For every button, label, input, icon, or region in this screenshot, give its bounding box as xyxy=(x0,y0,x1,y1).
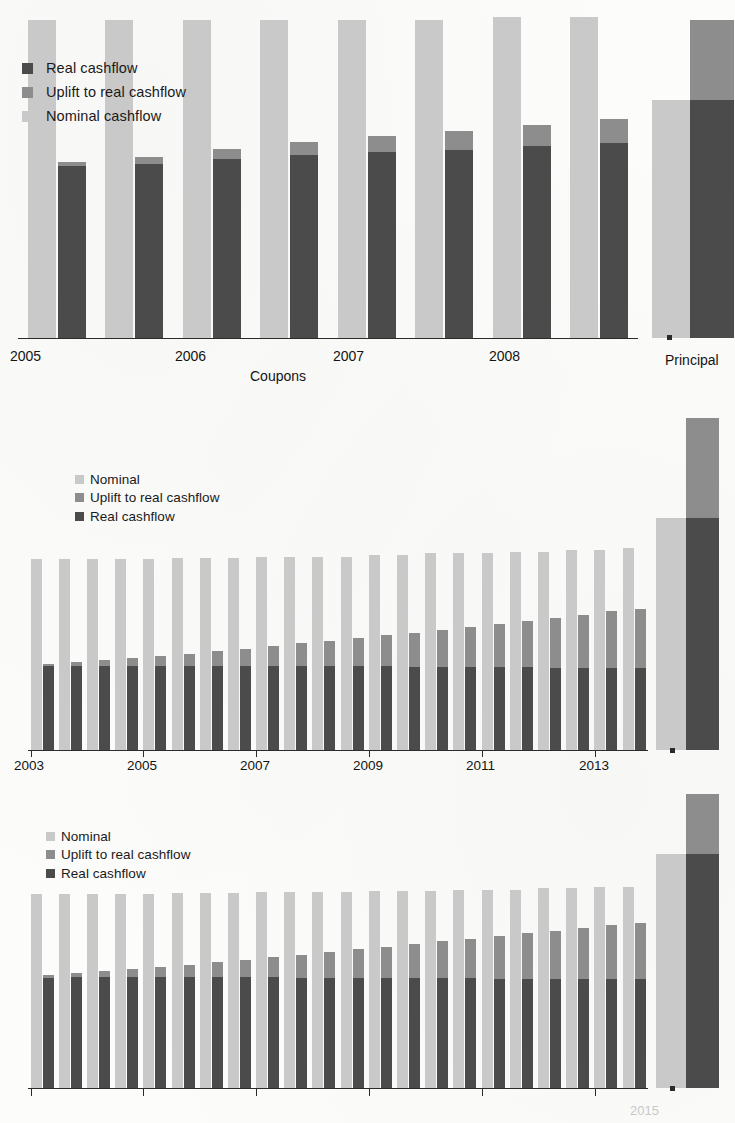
segment-real xyxy=(686,518,719,750)
bar-real-stack xyxy=(578,928,589,1088)
segment-real xyxy=(445,150,473,338)
segment-uplift xyxy=(127,658,138,666)
bar-nominal xyxy=(341,557,352,750)
segment-nominal xyxy=(115,559,126,750)
bar-group xyxy=(423,418,451,750)
bar-real-stack xyxy=(409,633,420,750)
segment-uplift xyxy=(600,119,628,143)
bar-group xyxy=(169,418,197,750)
bar-real-stack xyxy=(324,952,335,1088)
bar-real-stack xyxy=(155,967,166,1088)
bar-nominal xyxy=(566,888,577,1088)
chart3-tick-1 xyxy=(31,1088,32,1096)
segment-nominal xyxy=(397,555,408,750)
chart2-x-axis xyxy=(28,750,648,751)
bar-real-stack xyxy=(71,973,82,1088)
bar-group xyxy=(394,418,422,750)
bar-real-stack xyxy=(606,925,617,1088)
segment-real xyxy=(43,666,54,750)
bar-nominal xyxy=(538,552,549,750)
bar-nominal xyxy=(31,894,42,1088)
bar-real-stack xyxy=(58,162,86,338)
bar-group xyxy=(197,418,225,750)
segment-nominal xyxy=(425,891,436,1088)
bar-real-stack xyxy=(324,641,335,750)
segment-uplift xyxy=(437,630,448,667)
chart2-xtick-2009: 2009 xyxy=(353,758,383,773)
chart3-legend: Nominal Uplift to real cashflow Real cas… xyxy=(46,827,190,883)
legend-item-nominal: Nominal xyxy=(75,470,219,489)
segment-nominal xyxy=(183,20,211,338)
segment-uplift xyxy=(184,965,195,977)
legend-swatch-uplift xyxy=(75,493,84,502)
segment-real xyxy=(381,978,392,1088)
segment-real xyxy=(353,666,364,750)
segment-uplift xyxy=(324,641,335,666)
bar-nominal xyxy=(369,555,380,750)
bar-real-stack xyxy=(127,969,138,1088)
bar-real-stack xyxy=(296,955,307,1088)
bar-real-stack xyxy=(465,627,476,750)
chart2-xtick-2005: 2005 xyxy=(127,758,157,773)
segment-real xyxy=(213,159,241,338)
segment-uplift xyxy=(635,609,646,668)
segment-real xyxy=(494,979,505,1088)
legend-item-uplift: Uplift to real cashflow xyxy=(22,80,186,104)
bar-group xyxy=(282,794,310,1088)
chart3-tick-2 xyxy=(143,1088,144,1096)
bar-group xyxy=(483,20,561,338)
bar-real-stack xyxy=(99,660,110,750)
bar-group xyxy=(561,20,639,338)
segment-real xyxy=(71,977,82,1088)
segment-real xyxy=(494,667,505,750)
bar-group xyxy=(479,418,507,750)
bar-group xyxy=(310,794,338,1088)
segment-nominal xyxy=(482,553,493,750)
bar-real-stack xyxy=(212,651,223,750)
segment-uplift xyxy=(135,157,163,164)
chart2-tick-2007 xyxy=(256,750,257,757)
chart1-legend: Real cashflow Uplift to real cashflow No… xyxy=(22,56,186,128)
chart1-xtick-2008: 2008 xyxy=(489,348,520,364)
segment-real xyxy=(58,166,86,338)
legend-label-nominal: Nominal xyxy=(90,472,140,487)
segment-real xyxy=(522,979,533,1088)
segment-real xyxy=(268,666,279,750)
segment-nominal xyxy=(284,892,295,1088)
bar-group xyxy=(592,418,620,750)
legend-item-real-cashflow: Real cashflow xyxy=(46,864,190,883)
segment-nominal xyxy=(510,890,521,1088)
segment-uplift xyxy=(212,962,223,976)
chart2-tick-2013 xyxy=(595,750,596,757)
segment-uplift xyxy=(268,957,279,977)
bar-nominal xyxy=(312,892,323,1088)
bar-real-stack xyxy=(43,664,54,750)
segment-uplift xyxy=(184,654,195,666)
segment-real xyxy=(600,143,628,338)
bar-real-stack xyxy=(268,646,279,750)
bar-real-stack xyxy=(445,131,473,338)
bar-nominal xyxy=(172,558,183,750)
legend-label-real-cashflow: Real cashflow xyxy=(61,866,146,881)
segment-real xyxy=(381,666,392,750)
bar-real-stack xyxy=(99,971,110,1088)
segment-uplift xyxy=(494,624,505,667)
segment-uplift xyxy=(213,149,241,159)
bar-real-stack xyxy=(127,658,138,750)
segment-uplift xyxy=(353,638,364,666)
bar-nominal xyxy=(59,559,70,750)
segment-nominal xyxy=(538,552,549,750)
bar-real-stack xyxy=(184,654,195,750)
bar-group xyxy=(620,418,648,750)
chart3-tick-5 xyxy=(482,1088,483,1096)
bar-nominal xyxy=(87,559,98,750)
bar-real-stack xyxy=(465,939,476,1088)
bar-group xyxy=(338,418,366,750)
bar-real-stack xyxy=(213,149,241,338)
bar-real-stack xyxy=(690,20,734,338)
segment-real xyxy=(550,668,561,750)
bar-nominal xyxy=(200,558,211,750)
chart1-axis-caption-coupons: Coupons xyxy=(250,368,306,384)
bar-nominal xyxy=(143,559,154,750)
bar-real-stack xyxy=(437,941,448,1088)
